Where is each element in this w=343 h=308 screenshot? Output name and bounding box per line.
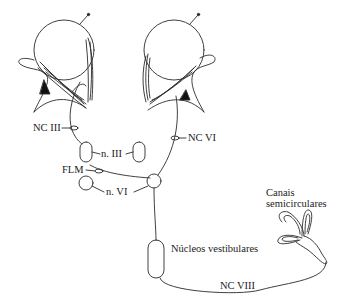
- canal-loop-bottom-inner: [282, 237, 298, 242]
- right-arrow-tip: [197, 13, 199, 15]
- label-nucleos-vestibulares: Núcleos vestibulares: [171, 244, 258, 255]
- label-n-vi: n. VI: [106, 187, 127, 198]
- label-flm: FLM: [62, 165, 84, 176]
- right-dark-triangle-icon: [180, 90, 190, 100]
- canal-vestibule: [296, 236, 327, 264]
- n-iii-right-nucleus: [133, 142, 145, 162]
- n-vi-leader-left: [92, 186, 104, 192]
- n-iii-leader-left: [92, 152, 100, 154]
- right-lateral-muscle: [143, 54, 150, 102]
- left-gaze-arrow: [80, 15, 88, 24]
- left-dark-triangle-icon: [40, 80, 50, 94]
- left-arrow-tip: [87, 13, 89, 15]
- vestibular-ascending-path: [154, 188, 156, 240]
- label-n-iii: n. III: [101, 149, 122, 160]
- nc-vi-nerve-path: [158, 96, 177, 175]
- flm-path: [90, 165, 150, 178]
- nucleos-vestibulares-body: [148, 240, 164, 278]
- right-orbit-bone: [148, 55, 215, 112]
- label-nc-viii: NC VIII: [220, 281, 255, 292]
- n-iii-left-nucleus: [80, 142, 92, 162]
- n-vi-leader-right: [134, 186, 148, 192]
- left-eye: [19, 13, 94, 112]
- left-orbit-bone: [19, 58, 86, 112]
- right-gaze-arrow: [190, 15, 198, 24]
- vestibulo-ocular-diagram: [0, 0, 343, 308]
- right-eye: [143, 13, 215, 112]
- left-eyeball: [34, 20, 94, 80]
- label-nc-vi: NC VI: [188, 133, 216, 144]
- n-vi-right-nucleus: [147, 174, 161, 188]
- flm-leader: [86, 170, 95, 171]
- left-inner-tendon: [72, 84, 86, 92]
- label-canais: Canais: [266, 188, 295, 199]
- canal-loop-left-inner: [284, 215, 300, 234]
- label-semicirculares: semicirculares: [266, 199, 327, 210]
- n-iii-leader-right: [126, 152, 133, 154]
- semicircular-canals-icon: [278, 210, 327, 264]
- n-vi-left-nucleus: [79, 176, 93, 190]
- left-lateral-muscle: [86, 38, 93, 102]
- label-nc-iii: NC III: [33, 123, 61, 134]
